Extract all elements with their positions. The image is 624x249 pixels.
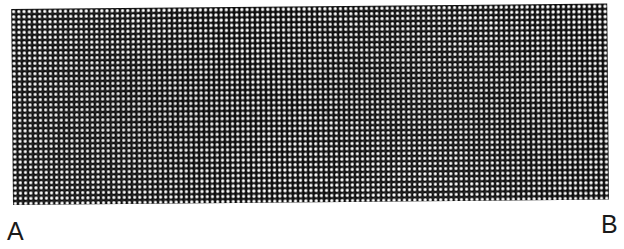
- shading-overlay: [11, 4, 609, 205]
- moire-overlay: [11, 4, 609, 205]
- panel-label-a: A: [7, 219, 24, 244]
- figure-root: A B: [0, 0, 624, 249]
- panel-label-b: B: [601, 212, 618, 237]
- dotted-texture-band: [11, 4, 609, 205]
- dot-lattice-layer: [11, 4, 609, 205]
